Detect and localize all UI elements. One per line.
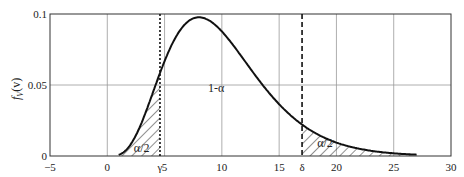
one-minus-alpha-label: 1-α [208, 81, 225, 95]
pdf-curve [119, 17, 417, 155]
chi-square-chart: −5051015202530 00.050.1 fV(v) 1-α α/2 α/… [0, 0, 464, 177]
alpha-half-left-label: α/2 [134, 141, 150, 155]
delta-label: δ [299, 161, 304, 173]
alpha-half-right-label: α/2 [317, 136, 333, 150]
svg-text:−5: −5 [44, 161, 56, 173]
svg-text:25: 25 [388, 161, 400, 173]
gamma-label: γ [157, 161, 163, 173]
x-axis-ticks: −5051015202530 [44, 161, 457, 173]
svg-text:15: 15 [274, 161, 286, 173]
svg-text:0: 0 [105, 161, 111, 173]
svg-text:20: 20 [331, 161, 343, 173]
svg-text:5: 5 [162, 161, 168, 173]
svg-text:0.05: 0.05 [28, 79, 48, 91]
grid-lines [50, 14, 451, 156]
svg-text:0.1: 0.1 [33, 8, 47, 20]
y-axis-ticks: 00.050.1 [28, 8, 48, 162]
tail-shading [119, 73, 417, 156]
y-axis-label: fV(v) [9, 78, 25, 100]
svg-text:30: 30 [446, 161, 458, 173]
svg-text:10: 10 [216, 161, 228, 173]
svg-text:0: 0 [42, 150, 48, 162]
